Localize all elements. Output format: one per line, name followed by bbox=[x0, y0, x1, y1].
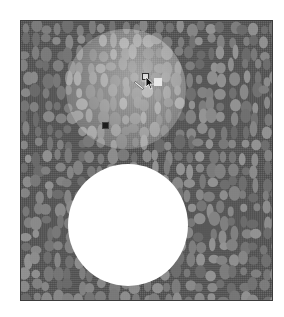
spotlight-circle bbox=[66, 29, 186, 149]
dark-square-marker[interactable] bbox=[102, 122, 109, 129]
textured-image-frame bbox=[20, 20, 273, 301]
light-square-marker bbox=[154, 78, 162, 86]
mouse-cursor-icon bbox=[145, 76, 155, 90]
white-circle-hole bbox=[68, 164, 188, 286]
